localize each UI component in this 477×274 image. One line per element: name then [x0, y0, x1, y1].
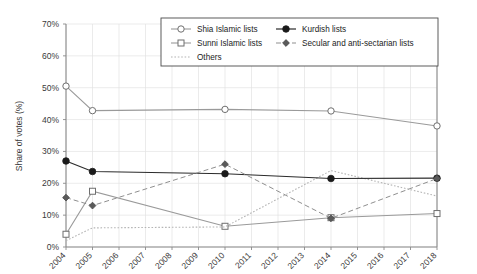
legend-label: Shia Islamic lists [197, 25, 258, 34]
y-tick-label: 20% [42, 178, 59, 188]
data-point-marker [222, 106, 228, 112]
y-tick-label: 40% [42, 115, 59, 125]
data-point-marker [63, 231, 69, 237]
votes-share-line-chart: 0%10%20%30%40%50%60%70% 2004200520062007… [0, 0, 477, 274]
legend-marker [178, 40, 184, 46]
legend-marker [178, 26, 184, 32]
data-point-marker [222, 170, 229, 177]
y-tick-label: 10% [42, 210, 59, 220]
data-point-marker [89, 107, 95, 113]
y-tick-label: 60% [42, 51, 59, 61]
data-point-marker [63, 158, 70, 165]
data-point-marker [328, 108, 334, 114]
y-tick-label: 30% [42, 146, 59, 156]
legend-marker [283, 26, 290, 33]
y-axis-title: Share of votes (%) [14, 101, 24, 172]
y-tick-label: 70% [42, 19, 59, 29]
legend-label: Sunni Islamic lists [197, 39, 262, 48]
legend-label: Secular and anti-sectarian lists [302, 39, 414, 48]
chart-legend: Shia Islamic listsSunni Islamic listsOth… [161, 18, 438, 66]
data-point-marker [434, 123, 440, 129]
data-point-marker [434, 211, 440, 217]
y-tick-label: 50% [42, 83, 59, 93]
legend-label: Kurdish lists [302, 25, 346, 34]
data-point-marker [328, 175, 335, 182]
legend-label: Others [197, 53, 222, 62]
data-point-marker [90, 188, 96, 194]
data-point-marker [63, 83, 69, 89]
chart-container: 0%10%20%30%40%50%60%70% 2004200520062007… [0, 0, 477, 274]
data-point-marker [89, 168, 96, 175]
legend-item[interactable]: Kurdish lists [276, 25, 346, 34]
y-tick-label: 0% [47, 242, 60, 252]
